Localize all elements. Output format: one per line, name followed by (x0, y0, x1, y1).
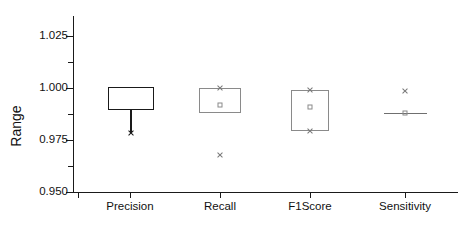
mean-marker-recall (218, 103, 223, 108)
box-recall (199, 88, 241, 113)
y-tick-label-1025: 1.025 (39, 30, 68, 41)
mean-marker-sensitivity (403, 111, 408, 116)
y-tick-label-0950: 0.950 (39, 186, 68, 197)
marker-f1score-upper (307, 87, 314, 94)
x-tick-recall (220, 192, 221, 198)
x-tick-sensitivity (405, 192, 406, 198)
y-minor-tick-3 (68, 166, 73, 167)
y-minor-tick-2 (68, 114, 73, 115)
y-tick-label-0975: 0.975 (39, 134, 68, 145)
box-precision (108, 87, 154, 110)
mean-marker-f1score (308, 105, 313, 110)
boxplot-chart: Range 1.025 1.000 0.975 0.950 Precision … (0, 0, 470, 233)
y-tick-label-1000: 1.000 (39, 82, 68, 93)
x-tick-f1score (310, 192, 311, 198)
marker-recall-upper (217, 85, 224, 92)
box-f1score (291, 90, 329, 131)
x-tick-label-f1score: F1Score (288, 200, 331, 212)
x-tick-label-recall: Recall (204, 200, 236, 212)
y-axis-title: Range (8, 91, 24, 161)
outlier-sensitivity (402, 88, 409, 95)
x-tick-label-sensitivity: Sensitivity (379, 200, 431, 212)
y-axis-line (73, 16, 74, 193)
x-tick-precision (130, 192, 131, 198)
y-minor-tick-1 (68, 62, 73, 63)
marker-f1score-lower (307, 128, 314, 135)
outlier-recall (217, 152, 224, 159)
x-tick-label-precision: Precision (106, 200, 153, 212)
marker-precision-low (128, 130, 135, 137)
x-tick-origin (78, 192, 79, 198)
